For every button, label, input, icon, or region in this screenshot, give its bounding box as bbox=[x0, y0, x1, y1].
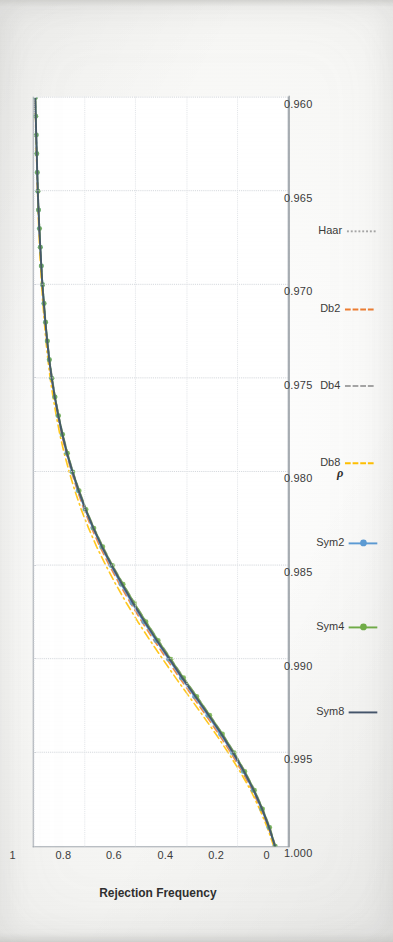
x-gridline bbox=[33, 658, 287, 659]
legend-item-sym8[interactable]: Sym8 bbox=[316, 705, 378, 716]
x-tick-label: 0.970 bbox=[284, 286, 312, 297]
y-gridline bbox=[135, 97, 136, 847]
legend-swatch-icon bbox=[349, 622, 378, 633]
y-gridline bbox=[236, 97, 237, 847]
y-tick-label: 0 bbox=[248, 849, 284, 860]
y-axis-title: Rejection Frequency bbox=[81, 886, 234, 899]
legend-swatch-icon bbox=[349, 537, 378, 548]
legend-item-haar[interactable]: Haar bbox=[318, 225, 375, 236]
scan-bottom-shadow bbox=[0, 933, 393, 942]
x-gridline bbox=[33, 190, 287, 191]
legend-label: Haar bbox=[318, 225, 342, 236]
y-tick-label: 0.2 bbox=[197, 849, 233, 860]
x-gridline bbox=[33, 565, 287, 566]
x-gridline bbox=[33, 284, 287, 285]
x-gridline bbox=[33, 471, 287, 472]
legend-swatch-icon bbox=[349, 706, 378, 717]
scanned-page: 1.0000.9950.9900.9850.9800.9750.9700.965… bbox=[0, 0, 393, 942]
x-tick-label: 0.985 bbox=[284, 567, 312, 578]
legend-swatch-icon bbox=[345, 304, 374, 315]
legend-swatch-icon bbox=[346, 225, 375, 236]
scan-top-shadow bbox=[0, 0, 393, 7]
y-tick-label: 0.6 bbox=[96, 849, 132, 860]
chart-figure: 1.0000.9950.9900.9850.9800.9750.9700.965… bbox=[19, 32, 374, 911]
legend-label: Sym2 bbox=[316, 537, 344, 548]
legend-label: Db2 bbox=[320, 303, 340, 314]
y-gridline bbox=[33, 97, 34, 847]
x-tick-label: 0.995 bbox=[284, 754, 312, 765]
y-tick-label: 1 bbox=[0, 849, 30, 860]
x-tick-label: 0.990 bbox=[284, 660, 312, 671]
legend-item-sym2[interactable]: Sym2 bbox=[316, 537, 378, 548]
legend-item-db4[interactable]: Db4 bbox=[320, 380, 374, 391]
x-tick-label: 0.960 bbox=[284, 99, 312, 110]
legend-item-db2[interactable]: Db2 bbox=[320, 303, 374, 314]
x-tick-label: 1.000 bbox=[284, 847, 312, 858]
legend-item-sym4[interactable]: Sym4 bbox=[316, 621, 378, 632]
chart-legend: HaarDb2Db4Db8Sym2Sym4Sym8 bbox=[334, 97, 359, 848]
x-tick-label: 0.975 bbox=[284, 379, 312, 390]
y-tick-label: 0.8 bbox=[45, 849, 81, 860]
y-gridline bbox=[84, 97, 85, 847]
legend-label: Db4 bbox=[320, 380, 340, 391]
plot-area bbox=[32, 97, 288, 848]
y-tick-label: 0.4 bbox=[146, 849, 182, 860]
x-gridline bbox=[33, 377, 287, 378]
legend-label: Sym8 bbox=[316, 705, 344, 716]
x-gridline bbox=[33, 97, 287, 98]
x-gridline bbox=[33, 752, 287, 753]
x-axis-line bbox=[288, 96, 289, 848]
legend-item-db8[interactable]: Db8 bbox=[320, 456, 374, 467]
x-tick-label: 0.965 bbox=[284, 192, 312, 203]
y-gridline bbox=[186, 97, 187, 847]
legend-swatch-icon bbox=[345, 380, 374, 391]
legend-label: Sym4 bbox=[316, 621, 344, 632]
legend-label: Db8 bbox=[320, 456, 340, 467]
rotated-figure-wrapper: 1.0000.9950.9900.9850.9800.9750.9700.965… bbox=[19, 32, 374, 911]
legend-swatch-icon bbox=[345, 457, 374, 468]
